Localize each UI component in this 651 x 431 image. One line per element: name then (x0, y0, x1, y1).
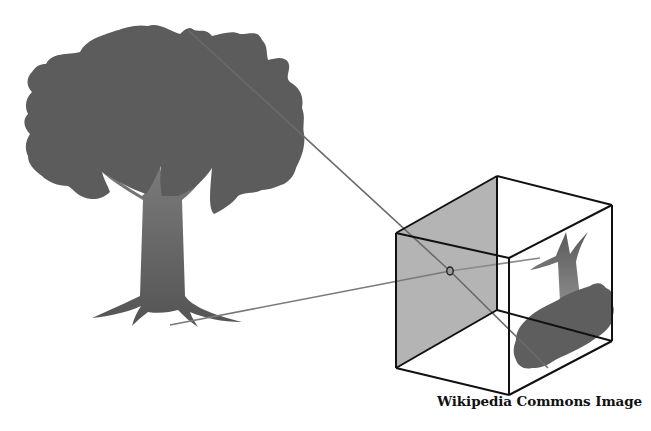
pinhole-camera-diagram (0, 0, 651, 431)
tree-canopy (24, 25, 304, 214)
pinhole (447, 267, 453, 275)
image-caption: Wikipedia Commons Image (437, 393, 642, 409)
tree-object (24, 25, 304, 327)
